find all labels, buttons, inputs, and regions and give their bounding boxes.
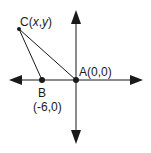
x-axis-right-arrow-icon [130,75,143,85]
label-b-coords: (-6,0) [33,100,62,114]
segment-ac [19,29,76,80]
x-axis-left-arrow-icon [9,75,22,85]
label-a: A(0,0) [79,65,112,79]
coordinate-diagram: A(0,0) B (-6,0) C(x,y) [0,0,151,153]
segment-bc [19,29,42,80]
label-c: C(x,y) [20,15,52,29]
y-axis-bottom-arrow-icon [71,130,81,144]
label-c-prefix: C( [20,15,33,29]
point-b [39,77,45,83]
label-b-name: B [38,86,46,100]
label-c-suffix: ) [48,15,52,29]
y-axis-top-arrow-icon [71,10,81,24]
